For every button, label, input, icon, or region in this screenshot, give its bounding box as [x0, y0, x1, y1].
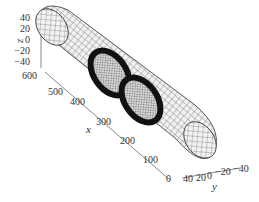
svg-text:300: 300: [96, 116, 111, 127]
svg-text:−20: −20: [14, 45, 30, 56]
svg-text:y: y: [211, 180, 217, 192]
svg-text:0: 0: [166, 173, 171, 184]
svg-text:40: 40: [183, 173, 193, 184]
y-axis: 40 20 0 −20 −40 y: [182, 163, 249, 192]
svg-text:400: 400: [70, 96, 85, 107]
svg-text:600: 600: [22, 70, 37, 81]
svg-text:−40: −40: [14, 56, 30, 67]
cylinder-3d-plot: 40 20 0 −20 −40 z 600 500 400 300 200 10…: [0, 0, 259, 202]
svg-text:0: 0: [25, 34, 30, 45]
svg-text:z: z: [13, 38, 25, 44]
svg-text:−20: −20: [215, 166, 231, 177]
svg-text:x: x: [85, 123, 91, 135]
svg-text:20: 20: [196, 172, 206, 183]
svg-text:20: 20: [20, 23, 30, 34]
svg-text:100: 100: [143, 154, 158, 165]
svg-text:500: 500: [48, 86, 63, 97]
svg-text:200: 200: [120, 135, 135, 146]
svg-text:−40: −40: [233, 163, 249, 174]
svg-text:40: 40: [20, 12, 30, 23]
